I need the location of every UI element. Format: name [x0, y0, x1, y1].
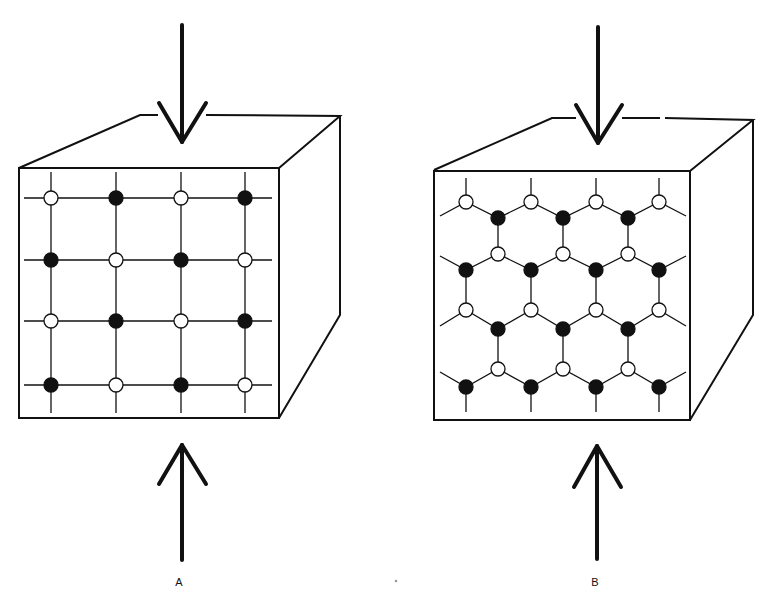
open-atom: [44, 191, 58, 205]
open-atom: [109, 253, 123, 267]
filled-atom: [652, 380, 666, 394]
filled-atom: [524, 263, 538, 277]
filled-atom: [109, 191, 123, 205]
panel-label-a: A: [169, 576, 189, 588]
open-atom: [44, 314, 58, 328]
arrow-down-b-icon: [576, 27, 622, 143]
filled-atom: [652, 263, 666, 277]
open-atom: [621, 247, 635, 261]
open-atom: [652, 303, 666, 317]
filled-atom: [556, 322, 570, 336]
open-atom: [238, 253, 252, 267]
open-atom: [491, 247, 505, 261]
arrow-up-b-icon: [574, 446, 621, 559]
open-atom: [238, 378, 252, 392]
print-speck: [395, 580, 398, 583]
open-atom: [174, 191, 188, 205]
arrow-up-a-icon: [159, 445, 206, 560]
open-atom: [621, 362, 635, 376]
filled-atom: [459, 380, 473, 394]
filled-atom: [589, 263, 603, 277]
open-atom: [174, 314, 188, 328]
filled-atom: [238, 191, 252, 205]
cube-b-top-back-edge-2: [665, 118, 753, 171]
filled-atom: [556, 211, 570, 225]
square-lattice-atoms: [44, 191, 252, 392]
filled-atom: [524, 380, 538, 394]
panel-label-b: B: [585, 576, 605, 588]
filled-atom: [491, 211, 505, 225]
open-atom: [589, 303, 603, 317]
diagram-canvas: [0, 0, 778, 607]
filled-atom: [589, 380, 603, 394]
filled-atom: [238, 314, 252, 328]
open-atom: [589, 195, 603, 209]
open-atom: [109, 378, 123, 392]
filled-atom: [621, 322, 635, 336]
open-atom: [524, 303, 538, 317]
cube-a-top-back-edge: [206, 115, 340, 168]
open-atom: [459, 303, 473, 317]
arrow-down-a-icon: [159, 25, 206, 142]
filled-atom: [491, 322, 505, 336]
open-atom: [556, 247, 570, 261]
filled-atom: [174, 253, 188, 267]
cube-b-top-edge: [434, 118, 576, 170]
open-atom: [652, 195, 666, 209]
filled-atom: [44, 253, 58, 267]
square-lattice-bonds: [24, 172, 272, 413]
filled-atom: [621, 211, 635, 225]
filled-atom: [109, 314, 123, 328]
hexagonal-lattice-atoms: [459, 195, 666, 394]
cube-b-right-face: [690, 120, 753, 420]
open-atom: [491, 362, 505, 376]
filled-atom: [459, 263, 473, 277]
open-atom: [524, 195, 538, 209]
filled-atom: [44, 378, 58, 392]
open-atom: [459, 195, 473, 209]
filled-atom: [174, 378, 188, 392]
cube-a-top-edge: [19, 115, 158, 168]
open-atom: [556, 362, 570, 376]
